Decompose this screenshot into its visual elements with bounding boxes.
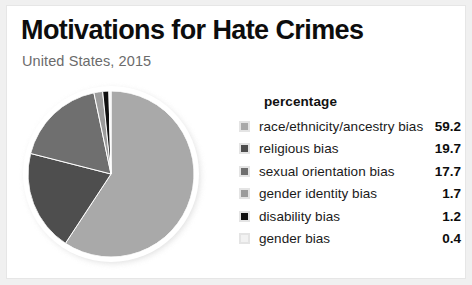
legend-value: 1.2 xyxy=(427,209,461,224)
legend-header: percentage xyxy=(264,94,461,109)
legend-swatch xyxy=(239,121,250,132)
pie-chart xyxy=(15,84,211,266)
legend-label: sexual orientation bias xyxy=(259,164,394,179)
legend-value: 0.4 xyxy=(427,231,461,246)
legend-value: 59.2 xyxy=(427,119,461,134)
legend-label: race/ethnicity/ancestry bias xyxy=(259,119,423,134)
legend-swatch xyxy=(239,188,250,199)
legend-label: gender bias xyxy=(259,231,330,246)
legend-row[interactable]: race/ethnicity/ancestry bias59.2 xyxy=(239,115,461,138)
legend-row[interactable]: gender identity bias1.7 xyxy=(239,183,461,206)
legend-swatch xyxy=(239,211,250,222)
legend-value: 17.7 xyxy=(427,164,461,179)
legend-swatch xyxy=(239,143,250,154)
page-subtitle: United States, 2015 xyxy=(22,53,151,69)
pie-svg xyxy=(28,91,194,257)
legend-row[interactable]: sexual orientation bias17.7 xyxy=(239,160,461,183)
legend-label: religious bias xyxy=(259,141,339,156)
legend-row[interactable]: gender bias0.4 xyxy=(239,228,461,251)
legend: percentage race/ethnicity/ancestry bias5… xyxy=(239,94,461,250)
legend-label: disability bias xyxy=(259,209,340,224)
legend-rows: race/ethnicity/ancestry bias59.2religiou… xyxy=(239,115,461,250)
legend-value: 19.7 xyxy=(427,141,461,156)
legend-row[interactable]: disability bias1.2 xyxy=(239,205,461,228)
page-title: Motivations for Hate Crimes xyxy=(21,16,363,44)
chart-card: Motivations for Hate Crimes United State… xyxy=(6,5,466,279)
legend-label: gender identity bias xyxy=(259,186,377,201)
legend-swatch xyxy=(239,233,250,244)
legend-value: 1.7 xyxy=(427,186,461,201)
pie-slices xyxy=(28,91,194,257)
legend-row[interactable]: religious bias19.7 xyxy=(239,138,461,161)
legend-swatch xyxy=(239,166,250,177)
